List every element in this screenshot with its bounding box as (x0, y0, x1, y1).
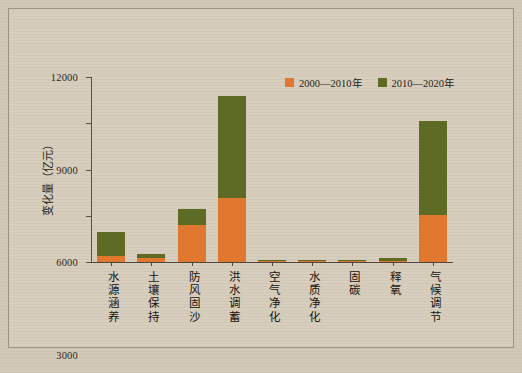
x-tick (272, 262, 273, 266)
bar-stack (379, 258, 407, 262)
bar-stack (97, 232, 125, 262)
x-tick (312, 262, 313, 266)
bar-segment-2010-2020 (218, 96, 246, 198)
y-tick-label: 9000 (56, 164, 78, 175)
bar-segment-2000-2010 (379, 261, 407, 262)
y-tick: 9000 (86, 123, 91, 124)
bar-stack (298, 260, 326, 262)
x-tick (111, 262, 112, 266)
bar-stack (178, 209, 206, 262)
x-tick (151, 262, 152, 266)
x-tick (232, 262, 233, 266)
legend-swatch-green (378, 78, 387, 87)
figure-canvas: 变化量（亿元） 030006000900012000 水源涵养土壤保持防风固沙洪… (0, 0, 522, 373)
bar-stack (258, 260, 286, 262)
bar-stack (218, 96, 246, 262)
legend-label: 2000—2010年 (299, 75, 362, 90)
plot-area: 030006000900012000 水源涵养土壤保持防风固沙洪水调蓄空气净化水… (91, 77, 453, 262)
bar-stack (338, 260, 366, 262)
y-tick: 12000 (86, 77, 91, 78)
legend-item: 2010—2020年 (378, 75, 455, 90)
y-axis-line (91, 77, 92, 262)
bar-segment-2000-2010 (258, 261, 286, 262)
bar-stack (419, 121, 447, 262)
x-tick-label: 固碳 (344, 271, 360, 297)
bar-segment-2000-2010 (419, 215, 447, 262)
x-tick-label: 释氧 (385, 271, 401, 297)
bar-segment-2010-2020 (97, 232, 125, 256)
bar-segment-2000-2010 (137, 258, 165, 262)
y-axis-title: 变化量（亿元） (39, 139, 55, 216)
bar-stack (137, 254, 165, 262)
x-tick (433, 262, 434, 266)
chart-legend: 2000—2010年2010—2020年 (285, 75, 454, 90)
chart-frame: 变化量（亿元） 030006000900012000 水源涵养土壤保持防风固沙洪… (8, 8, 514, 348)
legend-item: 2000—2010年 (285, 75, 362, 90)
y-tick: 6000 (86, 170, 91, 171)
bar-segment-2000-2010 (298, 261, 326, 262)
x-tick-label: 气候调节 (425, 271, 441, 324)
x-tick-label: 洪水调蓄 (224, 271, 240, 324)
y-tick-label: 3000 (56, 349, 78, 360)
y-tick-label: 12000 (51, 72, 78, 83)
x-tick (192, 262, 193, 266)
bar-segment-2000-2010 (218, 198, 246, 262)
bar-segment-2000-2010 (97, 256, 125, 262)
legend-swatch-orange (285, 78, 294, 87)
bar-segment-2000-2010 (178, 225, 206, 262)
y-tick-label: 6000 (56, 257, 78, 268)
x-tick (352, 262, 353, 266)
legend-label: 2010—2020年 (392, 75, 455, 90)
bar-segment-2000-2010 (338, 261, 366, 262)
x-tick-label: 水源涵养 (103, 271, 119, 324)
x-tick-label: 防风固沙 (184, 271, 200, 324)
bar-segment-2010-2020 (178, 209, 206, 225)
x-tick-label: 土壤保持 (143, 271, 159, 324)
y-tick: 0 (86, 262, 91, 263)
x-tick-label: 水质净化 (304, 271, 320, 324)
x-tick-label: 空气净化 (264, 271, 280, 324)
y-tick: 3000 (86, 216, 91, 217)
x-tick (393, 262, 394, 266)
bar-segment-2010-2020 (419, 121, 447, 215)
